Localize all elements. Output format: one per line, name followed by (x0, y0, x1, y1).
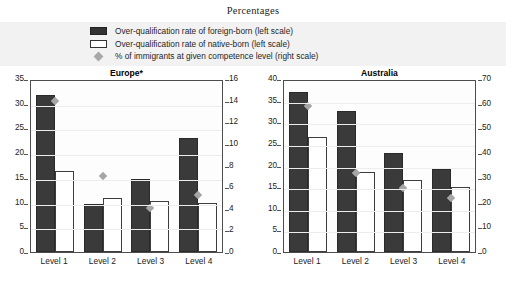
y2-tick-label: 0 (229, 248, 234, 256)
y-tick-label: 40 (268, 75, 277, 83)
x-axis-label: Level 4 (428, 256, 476, 266)
y-tick-mark (24, 105, 28, 106)
y2-tick-mark (478, 253, 482, 254)
bar-group (284, 81, 332, 252)
y2-tick-label: 2 (229, 226, 234, 234)
y2-tick-mark (225, 102, 229, 103)
y-tick-mark (24, 253, 28, 254)
light-swatch-icon (88, 40, 108, 48)
y2-tick-mark (478, 154, 482, 155)
y-tick-mark (277, 145, 281, 146)
y2-tick-label: 60 (482, 100, 491, 108)
panel-title-australia: Australia (253, 67, 506, 80)
y-tick-label: 10 (268, 205, 277, 213)
figure-title: Percentages (0, 0, 506, 18)
y-tick-mark (277, 80, 281, 81)
y-tick-label: 15 (15, 174, 24, 182)
y2-tick-label: 50 (482, 124, 491, 132)
y-tick-mark (24, 204, 28, 205)
bar-group (332, 81, 380, 252)
bar-native-born (403, 180, 422, 252)
gridline (31, 130, 222, 131)
y-tick-label: 35 (15, 75, 24, 83)
chart-legend: Over-qualification rate of foreign-born … (0, 22, 506, 66)
legend-label-native-born: Over-qualification rate of native-born (… (115, 38, 290, 51)
gridline (284, 189, 475, 190)
y2-tick-mark (225, 231, 229, 232)
y2-tick-mark (478, 204, 482, 205)
y2-tick-mark (225, 167, 229, 168)
diamond-marker-icon (88, 53, 108, 60)
y-tick-mark (277, 123, 281, 124)
x-axis-labels-australia: Level 1Level 2Level 3Level 4 (283, 256, 476, 266)
y2-tick-mark (478, 179, 482, 180)
bar-foreign-born (131, 179, 150, 252)
y2-tick-label: 12 (229, 118, 238, 126)
y2-tick-mark (478, 129, 482, 130)
gridline (31, 106, 222, 107)
y-tick-mark (277, 253, 281, 254)
y-tick-mark (277, 188, 281, 189)
bar-native-born (308, 137, 327, 252)
chart-panels: Europe* 05101520253035 0246810121416 Lev… (0, 67, 506, 289)
legend-item-native-born: Over-qualification rate of native-born (… (88, 38, 318, 51)
plot-area-europe (30, 80, 223, 253)
bar-group (427, 81, 475, 252)
y2-tick-mark (478, 105, 482, 106)
y-tick-mark (277, 231, 281, 232)
y-tick-mark (24, 179, 28, 180)
x-axis-label: Level 3 (127, 256, 175, 266)
y-tick-label: 30 (268, 118, 277, 126)
y2-tick-label: 10 (229, 140, 238, 148)
plot-area-australia (283, 80, 476, 253)
y2-tick-mark (225, 123, 229, 124)
gridline (284, 146, 475, 147)
y2-tick-label: 8 (229, 162, 234, 170)
y-axis-left-europe: 05101520253035 (2, 80, 28, 253)
bar-native-born (198, 203, 217, 252)
legend-label-immigrant-share: % of immigrants at given competence leve… (115, 50, 318, 63)
y-axis-right-australia: 010203040506070 (478, 80, 504, 253)
y-tick-label: 30 (15, 100, 24, 108)
legend-label-foreign-born: Over-qualification rate of foreign-born … (115, 25, 293, 38)
y-tick-mark (277, 102, 281, 103)
y2-tick-mark (225, 145, 229, 146)
bar-foreign-born (289, 92, 308, 252)
gridline (31, 155, 222, 156)
y2-tick-mark (478, 228, 482, 229)
y-tick-label: 10 (15, 199, 24, 207)
y-tick-label: 15 (268, 183, 277, 191)
bar-foreign-born (84, 204, 103, 252)
y-axis-right-europe: 0246810121416 (225, 80, 251, 253)
bar-foreign-born (337, 111, 356, 252)
dark-swatch-icon (88, 27, 108, 35)
y2-tick-label: 40 (482, 149, 491, 157)
gridline (31, 205, 222, 206)
y-tick-label: 20 (268, 162, 277, 170)
legend-item-foreign-born: Over-qualification rate of foreign-born … (88, 25, 318, 38)
y-tick-mark (24, 129, 28, 130)
bar-native-born (356, 172, 375, 252)
panel-australia: Australia 0510152025303540 0102030405060… (253, 67, 506, 289)
y2-tick-mark (225, 188, 229, 189)
y2-tick-label: 6 (229, 183, 234, 191)
y-tick-label: 25 (15, 124, 24, 132)
gridline (284, 168, 475, 169)
bar-groups-australia (284, 81, 475, 252)
gridline (284, 124, 475, 125)
y2-tick-label: 16 (229, 75, 238, 83)
y2-tick-label: 4 (229, 205, 234, 213)
y-axis-left-australia: 0510152025303540 (255, 80, 281, 253)
panel-europe: Europe* 05101520253035 0246810121416 Lev… (0, 67, 253, 289)
y2-tick-label: 0 (482, 248, 487, 256)
x-axis-label: Level 4 (175, 256, 223, 266)
x-axis-labels-europe: Level 1Level 2Level 3Level 4 (30, 256, 223, 266)
x-axis-label: Level 3 (380, 256, 428, 266)
y2-tick-label: 30 (482, 174, 491, 182)
y-tick-label: 20 (15, 149, 24, 157)
y-tick-mark (277, 167, 281, 168)
bar-native-born (103, 198, 122, 252)
gridline (31, 229, 222, 230)
y2-tick-mark (225, 210, 229, 211)
bar-native-born (55, 171, 74, 252)
